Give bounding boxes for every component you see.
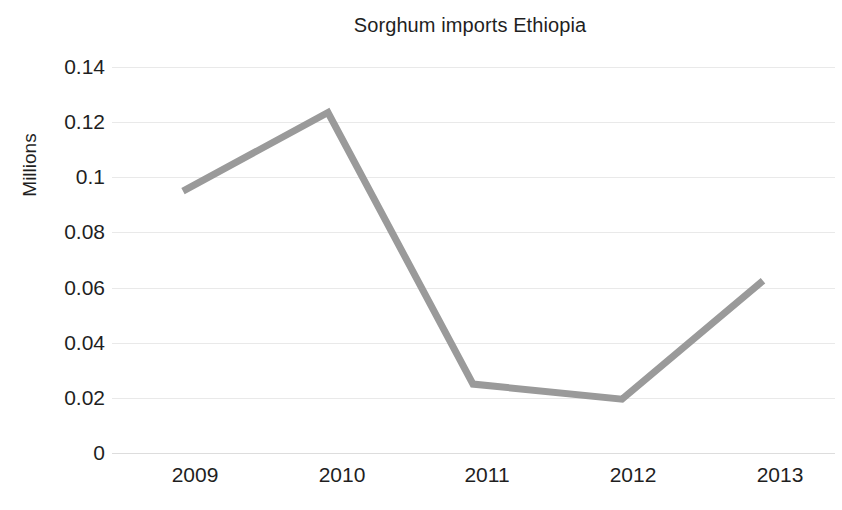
gridline: [112, 343, 835, 344]
x-axis-tick-label: 2011: [427, 463, 547, 487]
y-axis-tick-label: 0.12: [9, 111, 105, 132]
gridline: [112, 232, 835, 233]
x-axis-tick-label: 2012: [573, 463, 693, 487]
gridline: [112, 288, 835, 289]
chart-title-text: Sorghum imports Ethiopia: [354, 14, 587, 37]
x-axis-tick-label: 2013: [720, 463, 840, 487]
y-axis-tick-label: 0.02: [9, 387, 105, 408]
gridline: [112, 453, 835, 454]
x-axis-tick-label: 2009: [135, 463, 255, 487]
y-axis-tick-label: 0: [9, 442, 105, 463]
gridline: [112, 177, 835, 178]
line-chart: Sorghum imports Ethiopia Millions 0.140.…: [0, 0, 842, 510]
gridline: [112, 67, 835, 68]
y-axis-tick-labels: 0.140.120.10.080.060.040.020: [0, 55, 105, 455]
y-axis-tick-label: 0.08: [9, 221, 105, 242]
chart-title: Sorghum imports Ethiopia: [0, 14, 842, 37]
y-axis-tick-label: 0.06: [9, 277, 105, 298]
y-axis-tick-label: 0.1: [9, 166, 105, 187]
gridline: [112, 398, 835, 399]
plot-area: [112, 55, 835, 455]
x-axis-tick-label: 2010: [282, 463, 402, 487]
y-axis-tick-label: 0.14: [9, 56, 105, 77]
gridline: [112, 122, 835, 123]
y-axis-tick-label: 0.04: [9, 332, 105, 353]
